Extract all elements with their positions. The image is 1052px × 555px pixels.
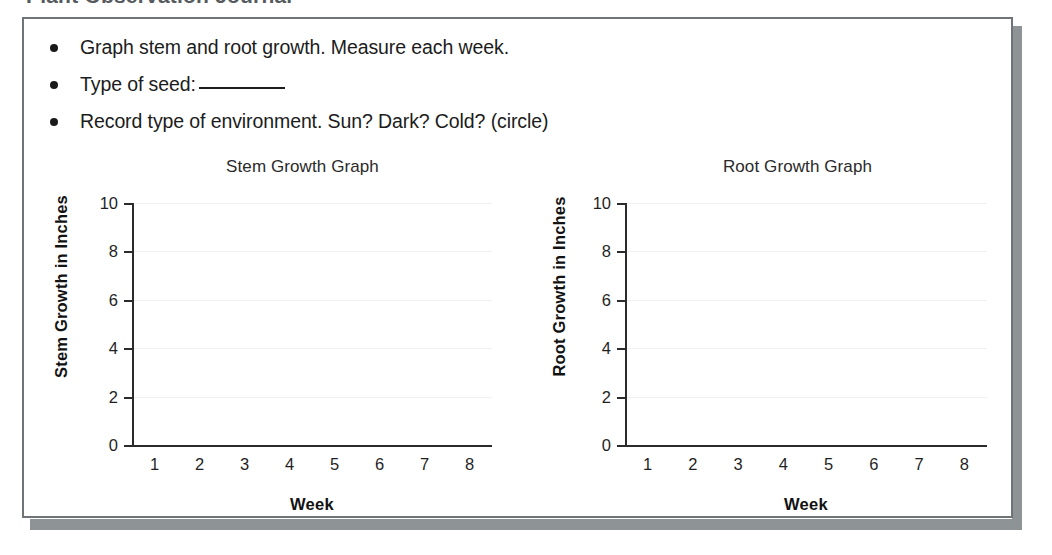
gridline xyxy=(134,251,492,252)
cut-off-heading: Plant Observation Journal xyxy=(0,0,1052,14)
worksheet-page: Plant Observation Journal Graph stem and… xyxy=(0,0,1052,555)
instruction-text-2: Type of seed: xyxy=(80,73,196,95)
root-growth-chart: Root Growth Graph Root Growth in Inches … xyxy=(519,157,1014,487)
y-tick-label: 10 xyxy=(593,194,611,213)
stem-growth-chart: Stem Growth Graph Stem Growth in Inches … xyxy=(24,157,519,487)
x-tick-label: 6 xyxy=(869,455,878,474)
y-tick-label: 10 xyxy=(100,194,118,213)
instruction-list: Graph stem and root growth. Measure each… xyxy=(50,35,980,146)
y-axis-label-root: Root Growth in Inches xyxy=(550,192,569,382)
gridline xyxy=(627,300,987,301)
y-tick-label: 2 xyxy=(109,387,118,406)
y-tick-label: 6 xyxy=(109,290,118,309)
gridline xyxy=(134,348,492,349)
list-item: Type of seed: xyxy=(50,72,980,98)
cut-off-heading-text: Plant Observation Journal xyxy=(26,0,292,8)
y-tick-mark xyxy=(124,397,133,399)
y-tick-label: 8 xyxy=(602,242,611,261)
gridline xyxy=(134,300,492,301)
x-axis-label-root: Week xyxy=(625,495,987,514)
y-tick-label: 0 xyxy=(602,436,611,455)
list-item: Record type of environment. Sun? Dark? C… xyxy=(50,109,980,135)
y-tick-label: 2 xyxy=(602,387,611,406)
x-tick-label: 8 xyxy=(465,455,474,474)
x-tick-label: 1 xyxy=(150,455,159,474)
instruction-text-1: Graph stem and root growth. Measure each… xyxy=(80,35,509,59)
x-tick-label: 2 xyxy=(195,455,204,474)
y-tick-mark xyxy=(124,445,133,447)
x-tick-label: 4 xyxy=(285,455,294,474)
x-tick-label: 6 xyxy=(375,455,384,474)
y-tick-label: 8 xyxy=(109,242,118,261)
bullet-dot-icon xyxy=(50,118,58,126)
bullet-dot-icon xyxy=(50,44,58,52)
y-tick-mark xyxy=(124,203,133,205)
y-tick-mark xyxy=(617,251,626,253)
x-tick-label: 7 xyxy=(420,455,429,474)
y-tick-mark xyxy=(617,445,626,447)
instruction-text-3: Record type of environment. Sun? Dark? C… xyxy=(80,109,548,133)
y-tick-mark xyxy=(617,203,626,205)
y-axis-line xyxy=(132,203,134,447)
x-tick-label: 7 xyxy=(915,455,924,474)
gridline xyxy=(627,203,987,204)
y-tick-mark xyxy=(124,251,133,253)
y-tick-mark xyxy=(617,348,626,350)
y-axis-line xyxy=(625,203,627,447)
y-axis-label-stem: Stem Growth in Inches xyxy=(52,192,71,382)
x-tick-label: 5 xyxy=(330,455,339,474)
x-tick-label: 2 xyxy=(688,455,697,474)
x-tick-label: 3 xyxy=(734,455,743,474)
seed-type-blank-field[interactable] xyxy=(199,87,285,89)
y-tick-mark xyxy=(617,397,626,399)
x-axis-line xyxy=(625,445,987,447)
list-item: Graph stem and root growth. Measure each… xyxy=(50,35,980,61)
gridline xyxy=(627,251,987,252)
plot-area-root: 10 8 6 4 2 0 1 2 3 4 5 6 7 8 Week xyxy=(625,203,987,447)
y-tick-label: 4 xyxy=(109,339,118,358)
plot-area-stem: 10 8 6 4 2 0 1 2 3 4 5 6 7 8 Week xyxy=(132,203,492,447)
worksheet-panel: Graph stem and root growth. Measure each… xyxy=(22,17,1013,518)
gridline xyxy=(134,397,492,398)
instruction-text-2-wrap: Type of seed: xyxy=(80,72,285,96)
x-axis-label-stem: Week xyxy=(132,495,492,514)
chart-title-stem: Stem Growth Graph xyxy=(24,157,519,177)
x-tick-label: 5 xyxy=(824,455,833,474)
x-tick-label: 4 xyxy=(779,455,788,474)
bullet-dot-icon xyxy=(50,81,58,89)
x-tick-label: 8 xyxy=(960,455,969,474)
chart-title-root: Root Growth Graph xyxy=(519,157,1014,177)
gridline xyxy=(134,203,492,204)
y-tick-mark xyxy=(617,300,626,302)
gridline xyxy=(627,397,987,398)
y-tick-mark xyxy=(124,300,133,302)
gridline xyxy=(627,348,987,349)
x-axis-line xyxy=(132,445,492,447)
y-tick-label: 6 xyxy=(602,290,611,309)
y-tick-label: 0 xyxy=(109,436,118,455)
y-tick-mark xyxy=(124,348,133,350)
panel-shadow-bottom xyxy=(30,519,1022,530)
x-tick-label: 1 xyxy=(643,455,652,474)
y-tick-label: 4 xyxy=(602,339,611,358)
x-tick-label: 3 xyxy=(240,455,249,474)
charts-row: Stem Growth Graph Stem Growth in Inches … xyxy=(24,157,1015,487)
